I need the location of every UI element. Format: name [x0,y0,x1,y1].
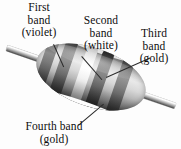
label-second-band-line2: band [70,27,132,40]
label-second-band: Second band (white) [70,14,132,52]
label-fourth-band-line2: (gold) [2,133,106,146]
resistor-color-code-figure: First band (violet) Second band (white) … [0,0,181,149]
label-third-band-line2: band [128,40,180,53]
label-fourth-band-line1: Fourth band [2,120,106,133]
label-first-band: First band (violet) [8,1,70,39]
label-third-band: Third band (gold) [128,27,180,65]
label-first-band-line2: band [8,14,70,27]
label-fourth-band: Fourth band (gold) [2,120,106,145]
label-first-band-line1: First [8,1,70,14]
label-second-band-line3: (white) [70,39,132,52]
label-second-band-line1: Second [70,14,132,27]
label-third-band-line3: (gold) [128,52,180,65]
label-first-band-line3: (violet) [8,26,70,39]
label-third-band-line1: Third [128,27,180,40]
